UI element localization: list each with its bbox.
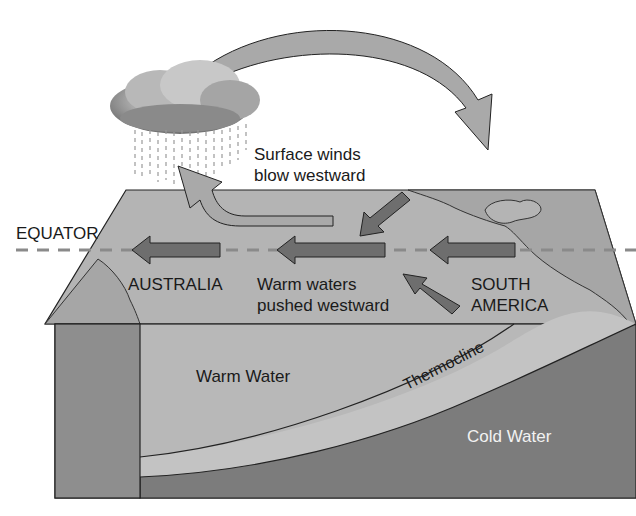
warm-water-label: Warm Water [196, 367, 290, 387]
warm-waters-label-2: pushed westward [257, 296, 389, 316]
el-nino-diagram: Surface winds blow westward EQUATOR AUST… [0, 0, 636, 516]
surface-winds-label-1: Surface winds [254, 145, 361, 165]
warm-waters-label-1: Warm waters [257, 275, 357, 295]
front-left-block [55, 324, 140, 498]
south-america-label-1: SOUTH [471, 275, 531, 295]
south-america-label-2: AMERICA [471, 296, 548, 316]
equator-label: EQUATOR [16, 224, 99, 244]
australia-label: AUSTRALIA [128, 275, 222, 295]
surface-winds-label-2: blow westward [254, 166, 366, 186]
rain-cloud [110, 60, 260, 134]
cold-water-label: Cold Water [467, 427, 551, 447]
